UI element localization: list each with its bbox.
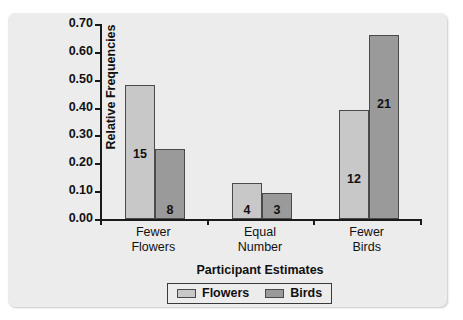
x-category-label-line: Fewer bbox=[317, 225, 417, 240]
x-category-label-1: EqualNumber bbox=[210, 225, 310, 255]
x-category-label-line: Number bbox=[210, 240, 310, 255]
legend-entry-flowers: Flowers bbox=[177, 287, 249, 300]
y-tick-label: 0.60 bbox=[69, 44, 93, 58]
x-axis-line bbox=[100, 219, 420, 221]
bar-value-label: 21 bbox=[370, 98, 398, 111]
chart-legend: Flowers Birds bbox=[167, 283, 332, 304]
x-axis-title: Participant Estimates bbox=[100, 263, 420, 277]
plot-area: 0.700.600.500.400.300.200.100.00 1584312… bbox=[100, 24, 420, 219]
bar-value-label: 12 bbox=[340, 173, 368, 186]
bar-birds-1: 3 bbox=[262, 193, 292, 219]
y-tick-mark bbox=[95, 191, 100, 193]
bars-layer: 158431221 bbox=[102, 24, 420, 219]
y-tick-mark bbox=[95, 135, 100, 137]
x-category-label-line: Fewer bbox=[103, 225, 203, 240]
bar-flowers-2: 12 bbox=[339, 110, 369, 219]
bar-value-label: 15 bbox=[126, 148, 154, 161]
y-tick-label: 0.40 bbox=[69, 100, 93, 114]
y-tick-label: 0.70 bbox=[69, 16, 93, 30]
figure-panel: 0.700.600.500.400.300.200.100.00 1584312… bbox=[8, 13, 447, 307]
y-tick-mark bbox=[95, 80, 100, 82]
legend-label-flowers: Flowers bbox=[202, 287, 249, 300]
x-category-label-0: FewerFlowers bbox=[103, 225, 203, 255]
bar-birds-0: 8 bbox=[155, 149, 185, 219]
legend-label-birds: Birds bbox=[290, 287, 322, 300]
x-tick-mark bbox=[420, 219, 422, 225]
legend-swatch-birds bbox=[265, 289, 284, 298]
y-tick-label: 0.20 bbox=[69, 155, 93, 169]
legend-swatch-flowers bbox=[177, 289, 196, 298]
y-tick-mark bbox=[95, 24, 100, 26]
y-tick-mark bbox=[95, 163, 100, 165]
bar-value-label: 8 bbox=[156, 204, 184, 217]
bar-flowers-1: 4 bbox=[232, 183, 262, 219]
bar-flowers-0: 15 bbox=[125, 85, 155, 219]
legend-entry-birds: Birds bbox=[265, 287, 322, 300]
x-category-label-2: FewerBirds bbox=[317, 225, 417, 255]
x-category-label-line: Birds bbox=[317, 240, 417, 255]
bar-birds-2: 21 bbox=[369, 35, 399, 219]
y-tick-label: 0.50 bbox=[69, 72, 93, 86]
y-axis-title: Relative Frequencies bbox=[104, 7, 118, 167]
x-category-label-line: Flowers bbox=[103, 240, 203, 255]
y-tick-label: 0.00 bbox=[69, 211, 93, 225]
x-axis-category-labels: FewerFlowersEqualNumberFewerBirds bbox=[100, 225, 420, 265]
bar-value-label: 3 bbox=[263, 204, 291, 217]
y-tick-label: 0.10 bbox=[69, 183, 93, 197]
bar-value-label: 4 bbox=[233, 204, 261, 217]
y-tick-label: 0.30 bbox=[69, 127, 93, 141]
x-category-label-line: Equal bbox=[210, 225, 310, 240]
y-tick-mark bbox=[95, 52, 100, 54]
y-tick-mark bbox=[95, 108, 100, 110]
